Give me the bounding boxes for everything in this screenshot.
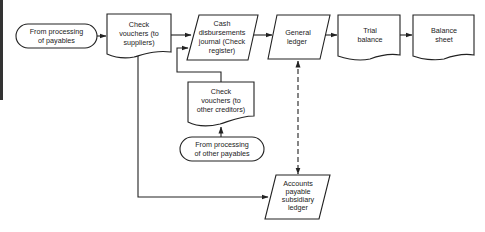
svg-text:From processing: From processing: [30, 27, 84, 36]
svg-text:balance: balance: [357, 35, 382, 44]
node-trial-balance: Trial balance: [338, 15, 400, 60]
svg-text:Check: Check: [129, 20, 150, 29]
svg-text:other creditors): other creditors): [197, 105, 245, 114]
node-check-vouchers-other-creditors: Check vouchers (to other creditors): [188, 82, 254, 126]
svg-text:General: General: [285, 28, 311, 37]
svg-text:of payables: of payables: [38, 36, 75, 45]
node-balance-sheet: Balance sheet: [413, 15, 474, 60]
edge-vouchers-to-apledger: [138, 56, 268, 197]
svg-text:suppliers): suppliers): [123, 38, 154, 47]
flowchart: From processing of payables Check vouche…: [0, 0, 485, 232]
svg-text:Trial: Trial: [363, 26, 377, 35]
svg-text:of other payables: of other payables: [194, 149, 250, 158]
svg-text:ledger: ledger: [287, 37, 308, 46]
node-accounts-payable-subsidiary-ledger: Accounts payable subsidiary ledger: [265, 175, 330, 219]
node-from-processing-of-payables: From processing of payables: [16, 24, 97, 48]
svg-text:Check: Check: [211, 87, 232, 96]
svg-text:vouchers (to: vouchers (to: [201, 96, 241, 105]
svg-text:vouchers (to: vouchers (to: [119, 29, 159, 38]
svg-text:register): register): [209, 46, 235, 55]
node-check-vouchers-suppliers: Check vouchers (to suppliers): [107, 14, 171, 58]
svg-text:From processing: From processing: [195, 140, 249, 149]
node-from-processing-of-other-payables: From processing of other payables: [180, 137, 264, 161]
svg-text:Balance: Balance: [431, 26, 457, 35]
node-general-ledger: General ledger: [268, 15, 330, 59]
svg-text:sheet: sheet: [435, 35, 453, 44]
svg-text:Cash: Cash: [214, 19, 231, 28]
svg-text:journal (Check: journal (Check: [198, 37, 246, 46]
svg-text:ledger: ledger: [288, 203, 309, 212]
node-cash-disbursements-journal: Cash disbursements journal (Check regist…: [187, 15, 258, 60]
svg-text:disbursements: disbursements: [199, 28, 246, 37]
